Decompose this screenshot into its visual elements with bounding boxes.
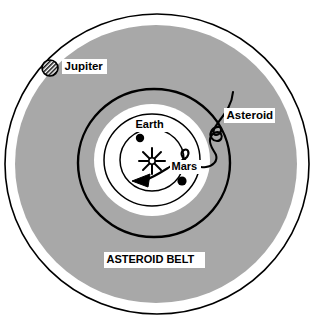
asteroid-belt-label-text: ASTEROID BELT (107, 253, 195, 265)
asteroid-label: Asteroid (224, 108, 275, 123)
asteroid-belt-diagram: Jupiter Asteroid Earth Mars ASTEROID BEL… (0, 0, 319, 326)
sun-starburst-icon (139, 148, 165, 174)
jupiter-label: Jupiter (62, 59, 107, 74)
mars-marker (177, 176, 186, 185)
asteroid-belt-label: ASTEROID BELT (104, 252, 205, 268)
mars-label: Mars (170, 160, 201, 174)
jupiter-label-text: Jupiter (65, 60, 104, 72)
mars-label-text: Mars (172, 160, 198, 172)
earth-label: Earth (134, 118, 168, 132)
asteroid-label-text: Asteroid (227, 109, 274, 121)
earth-label-text: Earth (136, 118, 164, 130)
earth-marker (136, 134, 144, 142)
jupiter-marker (42, 60, 58, 76)
diagram-canvas: Jupiter Asteroid Earth Mars ASTEROID BEL… (0, 0, 319, 326)
